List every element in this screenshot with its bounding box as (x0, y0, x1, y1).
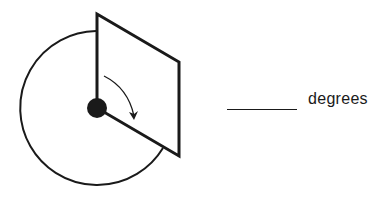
pivot-dot (87, 98, 107, 118)
unit-label: degrees (308, 90, 368, 108)
answer-blank[interactable] (227, 109, 297, 110)
panel-parallelogram (97, 14, 179, 156)
